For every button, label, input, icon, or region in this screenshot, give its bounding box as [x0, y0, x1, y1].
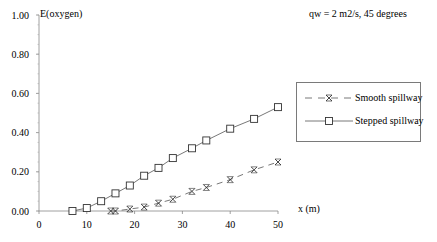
legend-item-stepped: Stepped spillway: [297, 112, 420, 132]
data-point-square: [251, 115, 258, 122]
x-axis-label: x (m): [298, 203, 320, 214]
data-point-square: [188, 145, 195, 152]
data-point-square: [155, 164, 162, 171]
data-point-square: [275, 104, 282, 111]
x-tick-label: 20: [130, 219, 140, 230]
data-point-square: [126, 182, 133, 189]
legend-smooth-marker-icon: [305, 91, 353, 105]
y-tick-label: 0.80: [12, 49, 30, 60]
series-line-0: [111, 162, 278, 211]
legend-item-smooth: Smooth spillway: [297, 89, 420, 109]
y-tick-label: 0.20: [12, 166, 30, 177]
legend: Smooth spillway Stepped spillway: [296, 82, 421, 142]
data-point-square: [69, 208, 76, 215]
legend-label-smooth: Smooth spillway: [355, 92, 423, 103]
legend-stepped-marker-icon: [305, 114, 353, 128]
y-tick-label: 0.60: [12, 88, 30, 99]
y-axis-label: E(oxygen): [40, 8, 82, 19]
data-point-square: [112, 190, 119, 197]
chart-annotation: qw = 2 m2/s, 45 degrees: [309, 8, 407, 19]
y-tick-label: 0.40: [12, 127, 30, 138]
y-tick-label: 1.00: [12, 10, 30, 21]
data-point-square: [227, 125, 234, 132]
legend-label-stepped: Stepped spillway: [355, 115, 424, 126]
x-tick-label: 30: [177, 219, 187, 230]
data-point-square: [141, 172, 148, 179]
x-tick-label: 10: [82, 219, 92, 230]
data-point-square: [98, 198, 105, 205]
x-tick-label: 50: [273, 219, 283, 230]
data-point-square: [203, 137, 210, 144]
x-tick-label: 0: [37, 219, 42, 230]
data-point-square: [83, 205, 90, 212]
y-tick-label: 0.00: [12, 206, 30, 217]
data-point-square: [169, 155, 176, 162]
x-tick-label: 40: [225, 219, 235, 230]
